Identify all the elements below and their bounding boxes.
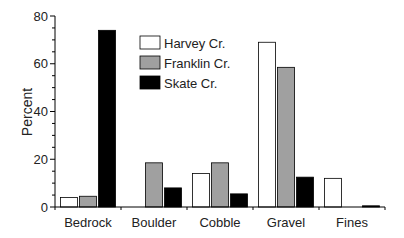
y-tick-label: 40 [34, 104, 48, 119]
x-tick-label: Bedrock [64, 215, 112, 230]
bar-boulder-skate-cr [165, 188, 182, 207]
x-tick-label: Boulder [132, 215, 177, 230]
bar-bedrock-franklin-cr [80, 196, 97, 207]
bar-gravel-skate-cr [297, 177, 314, 207]
x-tick-label: Fines [336, 215, 368, 230]
y-tick-label: 20 [34, 152, 48, 167]
x-tick-label: Cobble [199, 215, 240, 230]
y-axis-title: Percent [19, 88, 35, 136]
bar-fines-harvey-cr [325, 178, 342, 207]
legend-label: Franklin Cr. [164, 56, 230, 71]
bar-bedrock-skate-cr [99, 30, 116, 207]
y-tick-label: 60 [34, 56, 48, 71]
bar-gravel-harvey-cr [259, 42, 276, 207]
legend-swatch [140, 56, 160, 69]
bar-chart: 020406080BedrockBoulderCobbleGravelFines… [0, 0, 404, 238]
bar-cobble-franklin-cr [212, 163, 229, 207]
legend: Harvey Cr.Franklin Cr.Skate Cr. [140, 36, 230, 91]
legend-label: Skate Cr. [164, 76, 217, 91]
y-tick-label: 0 [41, 200, 48, 215]
y-tick-label: 80 [34, 9, 48, 24]
legend-swatch [140, 76, 160, 89]
bar-boulder-franklin-cr [146, 163, 163, 207]
legend-swatch [140, 36, 160, 49]
bar-gravel-franklin-cr [278, 67, 295, 207]
bar-cobble-harvey-cr [193, 174, 210, 207]
bar-cobble-skate-cr [231, 194, 248, 207]
x-tick-label: Gravel [267, 215, 305, 230]
legend-label: Harvey Cr. [164, 36, 225, 51]
bar-bedrock-harvey-cr [61, 197, 78, 207]
